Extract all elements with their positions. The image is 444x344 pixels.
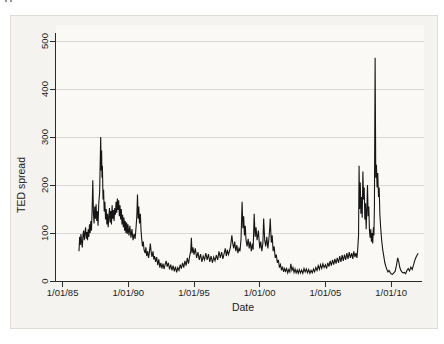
ted-spread-chart: 01002003004005001/01/851/01/901/01/951/0… <box>11 16 437 328</box>
y-tick-label: 500 <box>39 33 50 49</box>
plot-area <box>56 25 424 281</box>
x-axis-title: Date <box>232 301 254 313</box>
y-tick-label: 200 <box>39 177 50 193</box>
x-tick-label: 1/01/85 <box>47 287 79 298</box>
page-background: 01002003004005001/01/851/01/901/01/951/0… <box>0 0 444 344</box>
x-tick-label: 1/01/95 <box>178 287 210 298</box>
y-tick-label: 100 <box>39 225 50 241</box>
x-tick-label: 1/01/05 <box>310 287 342 298</box>
y-tick-label: 0 <box>39 278 50 283</box>
x-tick-label: 1/01/90 <box>112 287 144 298</box>
scan-artifact-mark <box>4 0 16 4</box>
y-tick-label: 400 <box>39 81 50 97</box>
x-tick-label: 1/01/10 <box>375 287 407 298</box>
figure-frame: 01002003004005001/01/851/01/901/01/951/0… <box>10 15 438 329</box>
y-axis-title: TED spread <box>15 157 27 213</box>
x-tick-label: 1/01/00 <box>244 287 276 298</box>
y-tick-label: 300 <box>39 129 50 145</box>
